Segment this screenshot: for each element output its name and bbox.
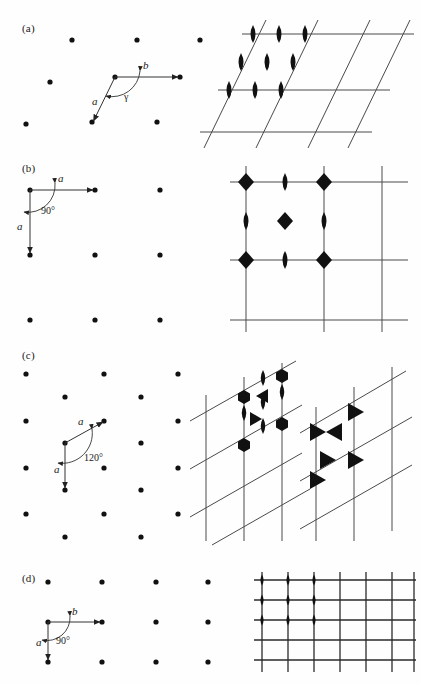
grid-lines-rectangular xyxy=(254,572,416,672)
twofold-lens-marker xyxy=(261,418,266,434)
twofold-lens-marker xyxy=(322,212,327,230)
grid-lines-hexagonal xyxy=(300,367,412,541)
twofold-lens-marker xyxy=(312,575,315,586)
twofold-lens-marker xyxy=(244,212,249,230)
panel-c-symmetry-diagram-p3 xyxy=(298,345,421,545)
sixfold-hexagon-marker xyxy=(238,390,250,404)
panel-d: (d) b a 90° xyxy=(0,560,421,684)
threefold-marker-group xyxy=(310,403,364,489)
threefold-triangle-marker xyxy=(326,423,342,441)
vector-label-a-vertical: a xyxy=(54,463,60,475)
vector-label-b: b xyxy=(72,605,78,617)
angle-label-90: 90° xyxy=(41,205,55,216)
threefold-triangle-marker xyxy=(250,412,262,426)
twofold-lens-marker xyxy=(260,575,263,586)
panel-b: (b) a a 90° xyxy=(0,150,421,335)
twofold-lens-marker xyxy=(280,384,285,400)
twofold-lens-marker xyxy=(242,405,247,421)
threefold-triangle-marker xyxy=(310,423,326,441)
angle-label-90: 90° xyxy=(56,635,70,646)
threefold-triangle-marker xyxy=(320,451,336,469)
vector-label-a: a xyxy=(36,636,42,648)
panel-c-cell-vectors: a a 120° xyxy=(0,345,200,550)
panel-b-cell-vectors: a a 90° xyxy=(0,150,220,335)
fourfold-square-marker xyxy=(238,251,254,269)
twofold-lens-marker xyxy=(286,615,289,626)
twofold-lens-marker xyxy=(279,81,284,99)
angle-label-gamma: γ xyxy=(123,91,129,102)
grid-lines-square xyxy=(230,166,408,332)
twofold-lens-marker xyxy=(260,615,263,626)
panel-c: (c) a a 120° xyxy=(0,345,421,550)
vector-label-b: b xyxy=(143,59,149,71)
panel-a: (a) xyxy=(0,0,421,150)
fourfold-square-marker xyxy=(316,173,332,191)
twofold-lens-marker xyxy=(303,25,308,43)
twofold-lens-marker xyxy=(312,595,315,606)
angle-label-120: 120° xyxy=(84,452,103,463)
panel-a-cell-vectors: b a γ xyxy=(0,0,220,150)
twofold-lens-marker xyxy=(227,81,232,99)
fourfold-square-marker xyxy=(316,251,332,269)
twofold-lens-marker xyxy=(286,595,289,606)
panel-d-cell-vectors: b a 90° xyxy=(0,560,250,684)
twofold-lens-marker xyxy=(283,173,288,191)
twofold-lens-marker xyxy=(251,25,256,43)
vector-label-a-vertical: a xyxy=(17,220,23,232)
vector-label-a-horizontal: a xyxy=(58,172,64,184)
twofold-lens-marker xyxy=(265,53,270,71)
threefold-marker-group xyxy=(250,389,268,426)
grid-lines-oblique xyxy=(200,20,414,148)
threefold-triangle-marker xyxy=(310,471,326,489)
fourfold-square-marker xyxy=(277,212,293,230)
twofold-lens-marker xyxy=(277,25,282,43)
twofold-lens-marker xyxy=(283,251,288,269)
threefold-triangle-marker xyxy=(348,451,364,469)
twofold-lens-marker xyxy=(286,575,289,586)
panel-b-symmetry-diagram xyxy=(228,160,421,335)
vector-label-a: a xyxy=(92,95,98,107)
twofold-lens-marker xyxy=(261,370,266,386)
panel-a-symmetry-diagram xyxy=(208,12,421,150)
fourfold-square-marker xyxy=(238,173,254,191)
panel-d-symmetry-diagram xyxy=(250,568,421,678)
twofold-lens-marker xyxy=(312,615,315,626)
vector-label-a-oblique: a xyxy=(78,415,84,427)
twofold-lens-marker xyxy=(260,595,263,606)
grid-lines-hexagonal xyxy=(190,361,310,545)
threefold-triangle-marker xyxy=(348,403,364,421)
twofold-lens-marker xyxy=(253,81,258,99)
twofold-marker-group xyxy=(227,25,308,99)
